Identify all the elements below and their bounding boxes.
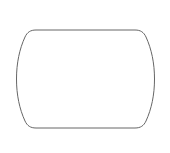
barrel-shape-svg — [0, 0, 170, 153]
drawing-canvas — [0, 0, 170, 153]
barrel-shape-outline[interactable] — [17, 30, 155, 128]
